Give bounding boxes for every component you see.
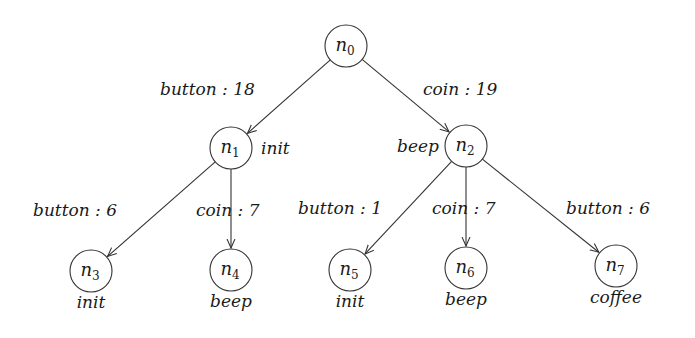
- node-annotation: init: [77, 292, 106, 312]
- node-annotation: beep: [445, 289, 487, 309]
- nodes-layer: n0n1initn2beepn3initn4beepn5initn6beepn7…: [70, 25, 642, 312]
- edge-label: coin : 7: [432, 198, 496, 218]
- edge-n0-n1: [247, 60, 330, 133]
- node-annotation: init: [336, 291, 365, 311]
- node-n1: n1init: [210, 127, 290, 169]
- edge-label: coin : 19: [423, 79, 497, 99]
- node-n5: n5init: [329, 249, 371, 311]
- edge-labels-layer: button : 18coin : 19button : 6coin : 7bu…: [33, 79, 650, 220]
- edge-label: button : 1: [298, 198, 382, 218]
- tree-diagram: button : 18coin : 19button : 6coin : 7bu…: [0, 0, 695, 338]
- edge-label: button : 6: [33, 200, 117, 220]
- node-n0: n0: [325, 25, 367, 67]
- node-n3: n3init: [70, 250, 112, 312]
- node-annotation: init: [261, 138, 290, 158]
- node-n7: n7coffee: [590, 245, 642, 307]
- node-n2: n2beep: [397, 125, 487, 167]
- edge-label: coin : 7: [196, 200, 260, 220]
- node-n4: n4beep: [210, 249, 252, 311]
- edge-label: button : 18: [160, 79, 255, 99]
- node-annotation: coffee: [590, 287, 642, 307]
- node-annotation: beep: [210, 291, 252, 311]
- node-annotation: beep: [397, 136, 439, 156]
- edge-label: button : 6: [566, 198, 650, 218]
- node-n6: n6beep: [445, 247, 487, 309]
